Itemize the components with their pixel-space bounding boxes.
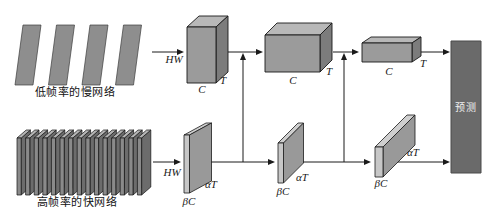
fast-frame-front bbox=[103, 138, 107, 195]
slow-frame bbox=[49, 25, 75, 85]
prediction-label: 预测 bbox=[455, 103, 477, 113]
fast-frame-front bbox=[51, 138, 55, 195]
fast-input-frames bbox=[17, 130, 151, 195]
cuboid-top-face bbox=[362, 37, 421, 43]
lateral-connection-2 bbox=[341, 53, 347, 162]
slow-input-hw-label: HW bbox=[165, 54, 182, 65]
slow-frame bbox=[82, 25, 108, 85]
fast-frame-front bbox=[17, 138, 21, 195]
cuboid-front-face bbox=[362, 43, 412, 62]
fast-stage-1-bc-label: βC bbox=[183, 196, 196, 207]
lateral-connection-1 bbox=[240, 53, 246, 162]
fast-stage-1-at-label: αT bbox=[205, 179, 217, 190]
slow-input-frames bbox=[15, 25, 142, 85]
slow-stage-2-t-label: T bbox=[326, 66, 332, 77]
fast-frame-front bbox=[26, 138, 30, 195]
diagram-canvas bbox=[0, 0, 499, 222]
slow-arrow-to-prediction bbox=[421, 49, 450, 55]
slow-frame bbox=[15, 25, 41, 85]
fast-stage-2-bc-label: βC bbox=[277, 186, 290, 197]
fast-frame-front bbox=[77, 138, 81, 195]
slow-stage-1-t-label: T bbox=[220, 75, 226, 86]
slow-pathway-label: 低帧率的慢网络 bbox=[35, 87, 116, 98]
slab-front-face bbox=[375, 147, 383, 177]
cuboid-front-face bbox=[265, 35, 320, 72]
fast-input-hw-label: HW bbox=[163, 167, 180, 178]
fast-frame-front bbox=[34, 138, 38, 195]
cuboid-front-face bbox=[187, 27, 216, 83]
fast-frame-front bbox=[86, 138, 90, 195]
fast-stage-2-at-label: αT bbox=[296, 172, 308, 183]
slab-front-face bbox=[278, 143, 284, 183]
slowfast-architecture-diagram: 低帧率的慢网络 高帧率的快网络 预测 HW C T C T C T HW βC … bbox=[0, 0, 499, 222]
slow-stage-2-cuboid bbox=[265, 23, 332, 72]
slow-stage-3-cuboid bbox=[362, 37, 421, 62]
slow-stage-1-c-label: C bbox=[198, 84, 205, 95]
fast-frame-front bbox=[69, 138, 73, 195]
fast-frame-front bbox=[137, 138, 141, 195]
fast-input-arrow bbox=[153, 159, 181, 165]
slab-front-face bbox=[184, 135, 190, 193]
fast-frame-front bbox=[94, 138, 98, 195]
slow-arrow-stage2-stage3 bbox=[333, 49, 359, 55]
fast-stage-3-bc-label: βC bbox=[375, 178, 388, 189]
slow-stage-3-t-label: T bbox=[420, 58, 426, 69]
fast-frame-front bbox=[129, 138, 133, 195]
fast-frame-front bbox=[120, 138, 124, 195]
fast-stage-3-at-label: αT bbox=[407, 147, 419, 158]
fast-frame-front bbox=[112, 138, 116, 195]
slow-arrow-stage1-stage2 bbox=[228, 49, 263, 55]
fast-frame-side bbox=[142, 130, 151, 195]
fast-frame-front bbox=[60, 138, 64, 195]
fast-pathway-label: 高帧率的快网络 bbox=[37, 197, 118, 208]
slow-frame bbox=[116, 25, 142, 85]
slow-stage-2-c-label: C bbox=[289, 75, 296, 86]
fast-frame-front bbox=[43, 138, 47, 195]
slow-stage-3-c-label: C bbox=[385, 66, 392, 77]
